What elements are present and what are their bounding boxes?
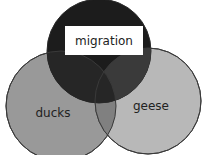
geese-label: geese [133,99,169,113]
venn-diagram: migration ducks geese [0,0,206,155]
migration-label: migration [75,34,133,48]
ducks-label: ducks [35,106,70,120]
